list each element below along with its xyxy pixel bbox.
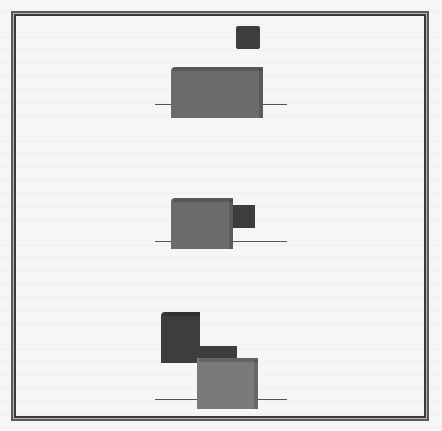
middle-large-box-bevel <box>173 198 233 202</box>
bottom-tall-box-bevel <box>163 312 200 316</box>
middle-small-box <box>231 205 255 228</box>
bottom-large-box-bevel <box>199 358 258 362</box>
middle-large-box <box>171 198 233 249</box>
top-large-box <box>171 67 263 118</box>
middle-large-box-side <box>229 200 233 249</box>
bottom-large-box-side <box>254 360 258 409</box>
top-large-box-side <box>259 69 263 118</box>
top-large-box-bevel <box>173 67 263 71</box>
bottom-tall-box <box>161 312 200 363</box>
top-small-square <box>236 26 260 49</box>
bottom-large-box <box>197 358 258 409</box>
